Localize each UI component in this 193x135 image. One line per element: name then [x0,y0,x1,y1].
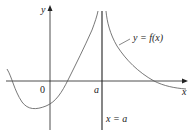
curve-left-branch [7,11,98,109]
diagram-svg: y x 0 a x = a y = f(x) [0,0,193,135]
y-axis-label: y [40,4,46,15]
curve-right-branch [106,11,186,89]
curve-label-leader [119,39,130,45]
y-axis-arrow-icon [48,5,53,11]
asymptote-tick-label: a [94,84,99,95]
curve-label: y = f(x) [132,32,164,44]
x-axis-arrow-icon [182,79,188,84]
x-axis-label: x [181,86,187,97]
origin-label: 0 [40,84,45,95]
asymptote-diagram: y x 0 a x = a y = f(x) [0,0,193,135]
asymptote-label: x = a [105,113,127,124]
